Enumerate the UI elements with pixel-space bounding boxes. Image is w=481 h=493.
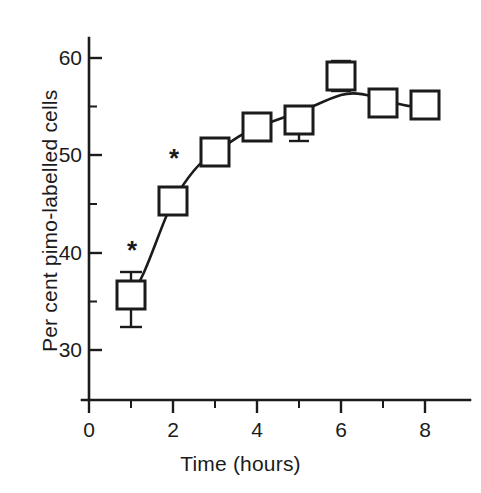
data-point-marker[interactable] [327, 62, 355, 90]
x-axis-tick-label: 8 [405, 418, 445, 442]
error-bars-group [120, 61, 351, 327]
significance-asterisk: * [122, 240, 142, 260]
data-point-marker[interactable] [369, 89, 397, 117]
x-axis-tick-label: 6 [321, 418, 361, 442]
x-axis-tick-label: 2 [153, 418, 193, 442]
data-point-marker[interactable] [285, 106, 313, 134]
data-point-marker[interactable] [159, 187, 187, 215]
chart-figure: * * 60 50 40 30 0 2 4 6 8 Per cent pimo-… [0, 0, 481, 493]
y-axis-title: Per cent pimo-labelled cells [38, 52, 62, 352]
significance-asterisk: * [164, 148, 184, 168]
x-axis-tick-label: 4 [237, 418, 277, 442]
x-major-ticks [89, 400, 425, 413]
data-point-marker[interactable] [201, 138, 229, 166]
x-axis-title: Time (hours) [0, 452, 481, 476]
x-axis-tick-label: 0 [69, 418, 109, 442]
data-point-marker[interactable] [117, 281, 145, 309]
data-markers-group [117, 62, 439, 309]
data-point-marker[interactable] [411, 91, 439, 119]
data-point-marker[interactable] [243, 113, 271, 141]
